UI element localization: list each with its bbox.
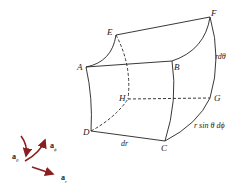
vertex-label-C: C [161,144,167,153]
edge-AB [86,61,172,67]
vertex-label-G: G [214,94,221,103]
dimension-label-r-sin-theta-dphi: r sin θ dϕ [194,122,225,130]
edge-EF [116,17,210,35]
edge-CG [165,98,210,141]
vertex-label-B: B [174,63,180,72]
dimension-label-dr: dr [121,140,128,148]
vertex-label-D: D [83,128,90,137]
phi-unit-vector-arrow [25,140,45,161]
vertex-label-A: A [77,63,83,72]
vertex-label-F: F [211,9,217,18]
edge-BC [165,61,174,141]
vertex-label-H: H [119,94,126,103]
spherical-volume-element-diagram: E F A B H G D C rdθ r sin θ dϕ dr aθ aϕ … [0,0,245,189]
theta-unit-vector-arrow [21,136,26,156]
edge-AD [86,67,91,131]
dimension-label-r-dtheta: rdθ [215,53,226,61]
theta-unit-vector-label: aθ [12,153,18,163]
r-unit-vector-arrow [32,167,53,174]
edge-AE [86,35,116,67]
edge-HG-hidden [128,98,210,99]
edge-EH-hidden [116,35,129,99]
vertex-label-E: E [107,28,113,37]
r-unit-vector-label: ar [61,174,67,184]
edge-DH-hidden [91,99,128,131]
phi-unit-vector-label: aϕ [50,142,57,152]
